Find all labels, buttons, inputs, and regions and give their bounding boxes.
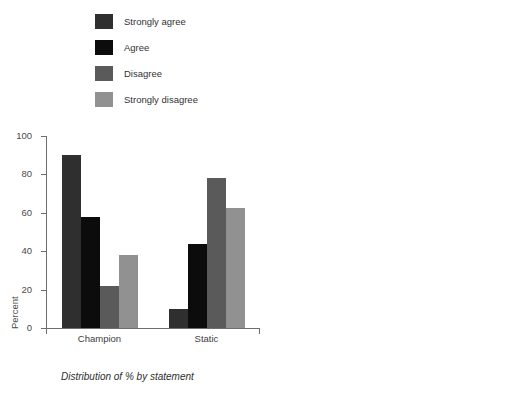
- y-axis-tick-label: 60: [21, 208, 32, 218]
- y-axis-tick: 20: [41, 290, 46, 291]
- legend-color-swatch-icon: [95, 40, 113, 55]
- y-axis-tick-label: 0: [27, 323, 32, 333]
- y-axis-tick-label: 20: [21, 285, 32, 295]
- x-axis-line-left: [46, 328, 260, 329]
- x-axis-category-label-line: Champion: [46, 333, 153, 344]
- y-axis-tick: 0: [41, 328, 46, 329]
- plot-area-left: 020406080100ChampionStatic: [46, 136, 260, 329]
- bar: [188, 244, 207, 328]
- x-axis-category-label-line: Static: [153, 333, 260, 344]
- y-axis-tick: 60: [41, 213, 46, 214]
- y-axis-tick: 100: [41, 136, 46, 137]
- bar: [100, 286, 119, 328]
- legend-left-label: Disagree: [124, 68, 162, 79]
- legend-left-item[interactable]: Strongly agree: [95, 14, 198, 29]
- y-axis-tick-label: 100: [16, 131, 32, 141]
- x-axis-category-label: Static: [153, 333, 260, 344]
- chart-panel-right: ChampionStatic Percent 01020304050Strong…: [265, 0, 526, 408]
- y-axis-title-left: Percent: [9, 296, 20, 329]
- legend-left-label: Strongly agree: [124, 16, 186, 27]
- legend-left-item[interactable]: Disagree: [95, 66, 198, 81]
- bar: [81, 217, 100, 328]
- legend-color-swatch-icon: [95, 92, 113, 107]
- x-axis-category-label: Champion: [46, 333, 153, 344]
- bar: [226, 208, 245, 328]
- legend-left-label: Strongly disagree: [124, 94, 198, 105]
- y-axis-line-left: [46, 136, 47, 329]
- y-axis-tick: 40: [41, 251, 46, 252]
- legend-color-swatch-icon: [95, 66, 113, 81]
- y-axis-tick-label: 40: [21, 246, 32, 256]
- bar: [207, 178, 226, 328]
- bar: [62, 155, 81, 328]
- bar: [119, 255, 138, 328]
- legend-left-item[interactable]: Agree: [95, 40, 198, 55]
- legend-color-swatch-icon: [95, 14, 113, 29]
- caption-left: Distribution of % by statement: [61, 371, 194, 382]
- legend-left: Strongly agreeAgreeDisagreeStrongly disa…: [95, 14, 198, 107]
- bar: [169, 309, 188, 328]
- legend-left-label: Agree: [124, 42, 149, 53]
- chart-panel-left: Strongly agreeAgreeDisagreeStrongly disa…: [0, 0, 265, 408]
- legend-left-item[interactable]: Strongly disagree: [95, 92, 198, 107]
- y-axis-tick: 80: [41, 174, 46, 175]
- y-axis-tick-label: 80: [21, 169, 32, 179]
